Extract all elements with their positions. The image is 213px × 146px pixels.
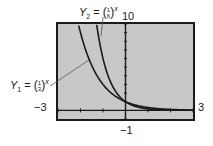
xmax-label: 3 <box>198 101 204 113</box>
y1-equals: = <box>24 79 30 91</box>
y1-subscript: 1 <box>17 86 21 93</box>
y1-exponent: x <box>45 78 49 85</box>
ymax-label: 10 <box>122 10 134 22</box>
y2-subscript: 2 <box>86 13 90 20</box>
y1-equation-label: Y1 = (13)x <box>10 76 49 96</box>
ymin-label: −1 <box>120 124 133 136</box>
xmin-label: −3 <box>34 101 47 113</box>
y2-exponent: x <box>114 5 118 12</box>
y2-equation-label: Y2 = (16)x <box>79 3 118 23</box>
y2-equals: = <box>93 6 99 18</box>
